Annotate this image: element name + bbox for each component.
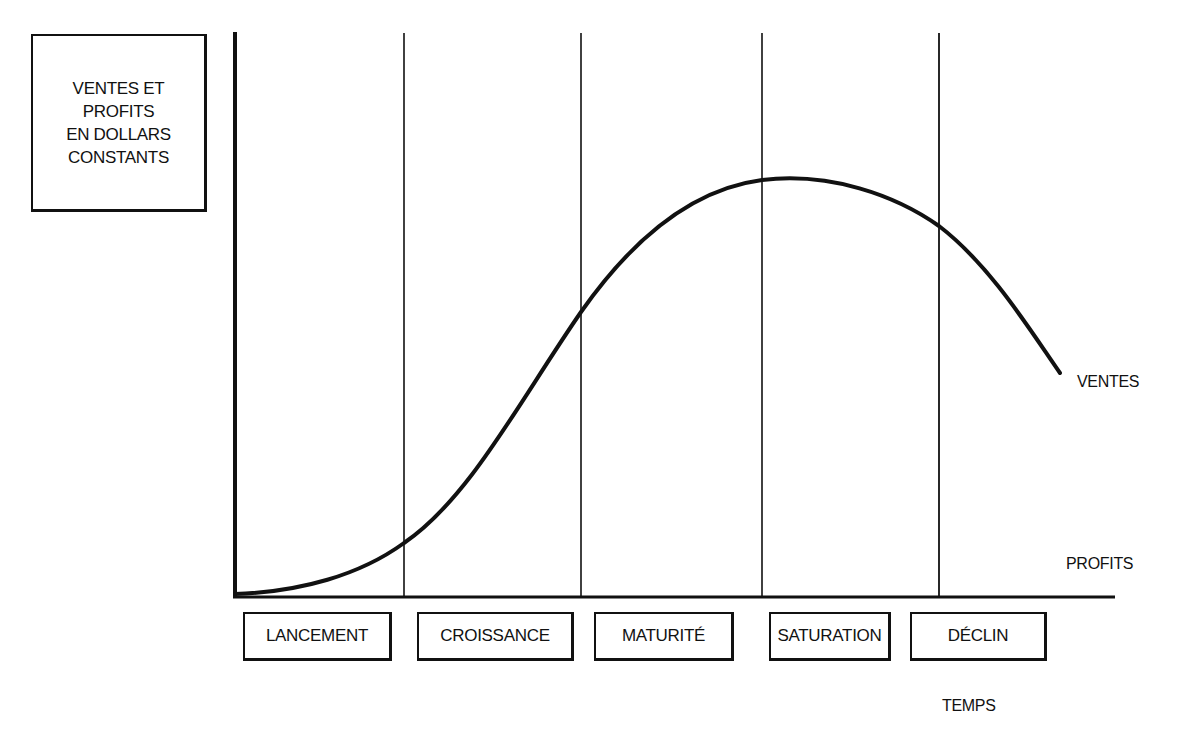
phase-label: CROISSANCE	[440, 626, 549, 646]
sales-curve	[235, 178, 1060, 594]
phase-saturation: SATURATION	[769, 612, 891, 661]
phase-label: MATURITÉ	[622, 626, 705, 646]
phase-label: SATURATION	[777, 626, 881, 646]
phase-label: DÉCLIN	[948, 626, 1009, 646]
sales-series-label: VENTES	[1077, 373, 1139, 391]
phase-launch: LANCEMENT	[243, 612, 392, 661]
phase-label: LANCEMENT	[266, 626, 368, 646]
x-axis-label: TEMPS	[942, 697, 996, 715]
profits-series-label: PROFITS	[1066, 555, 1133, 573]
phase-growth: CROISSANCE	[417, 612, 574, 661]
phase-decline: DÉCLIN	[910, 612, 1047, 661]
phase-maturity: MATURITÉ	[594, 612, 734, 661]
